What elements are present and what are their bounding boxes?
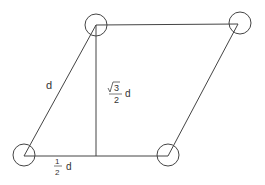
height-label-variable: d <box>125 88 131 99</box>
side-label: d <box>46 79 52 91</box>
base-label-denominator: 2 <box>55 168 60 177</box>
lattice-diagram: d 3 2 d 1 2 d <box>0 0 265 185</box>
base-offset-label: 1 2 d <box>54 157 72 177</box>
base-label-variable: d <box>66 161 72 172</box>
height-label: 3 2 d <box>108 82 131 105</box>
atom-top-right <box>229 12 251 34</box>
height-label-denominator: 2 <box>114 95 119 105</box>
height-label-radical: 3 <box>114 83 119 93</box>
unit-cell-parallelogram <box>24 24 238 156</box>
base-label-numerator: 1 <box>55 157 60 166</box>
